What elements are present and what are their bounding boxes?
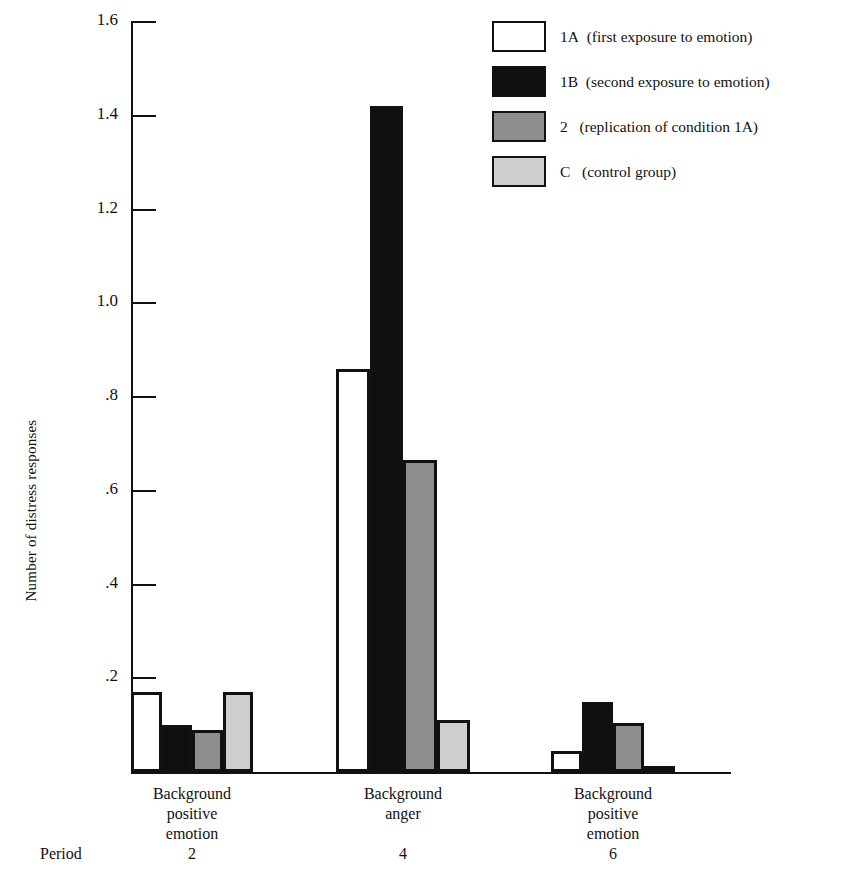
y-tick-label: .4	[44, 573, 118, 593]
y-tick-label: 1.0	[44, 291, 118, 311]
bar	[613, 723, 644, 772]
y-tick-label: .8	[44, 385, 118, 405]
y-tick	[131, 584, 156, 586]
bar	[336, 369, 370, 772]
period-number: 2	[82, 845, 302, 863]
y-tick-label: 1.4	[44, 104, 118, 124]
bar	[192, 730, 223, 772]
y-axis-line	[131, 22, 133, 774]
period-number: 4	[293, 845, 513, 863]
y-tick	[131, 21, 156, 23]
y-tick	[131, 115, 156, 117]
legend: 1A (first exposure to emotion) 1B (secon…	[492, 14, 770, 194]
y-axis-label: Number of distress responses	[23, 346, 40, 676]
bar	[223, 692, 254, 772]
y-tick	[131, 396, 156, 398]
x-axis-line	[131, 772, 731, 774]
bar	[644, 766, 675, 772]
y-tick	[131, 490, 156, 492]
black-swatch-icon	[492, 66, 546, 97]
y-tick	[131, 209, 156, 211]
bar	[403, 460, 437, 772]
y-tick	[131, 302, 156, 304]
period-label: Period	[40, 845, 82, 863]
legend-label-2: 2 (replication of condition 1A)	[560, 118, 758, 136]
bar	[370, 106, 404, 772]
bar-chart-figure: Number of distress responses 1.61.41.21.…	[0, 0, 842, 880]
y-tick-label: 1.6	[44, 10, 118, 30]
group-caption: Background positive emotion	[503, 784, 723, 844]
light-gray-swatch-icon	[492, 156, 546, 187]
group-caption: Background positive emotion	[82, 784, 302, 844]
bar	[551, 751, 582, 772]
legend-label-1b: 1B (second exposure to emotion)	[560, 73, 770, 91]
bar	[131, 692, 162, 772]
gray-swatch-icon	[492, 111, 546, 142]
white-swatch-icon	[492, 21, 546, 52]
legend-label-c: C (control group)	[560, 163, 676, 181]
legend-item-2[interactable]: 2 (replication of condition 1A)	[492, 104, 770, 149]
bar	[162, 725, 193, 772]
y-tick-label: .2	[44, 666, 118, 686]
y-tick-label: 1.2	[44, 198, 118, 218]
legend-label-1a: 1A (first exposure to emotion)	[560, 28, 752, 46]
group-caption: Background anger	[293, 784, 513, 824]
y-tick	[131, 677, 156, 679]
bar	[437, 720, 471, 772]
period-number: 6	[503, 845, 723, 863]
legend-item-1a[interactable]: 1A (first exposure to emotion)	[492, 14, 770, 59]
bar	[582, 702, 613, 772]
legend-item-c[interactable]: C (control group)	[492, 149, 770, 194]
legend-item-1b[interactable]: 1B (second exposure to emotion)	[492, 59, 770, 104]
y-tick-label: .6	[44, 479, 118, 499]
